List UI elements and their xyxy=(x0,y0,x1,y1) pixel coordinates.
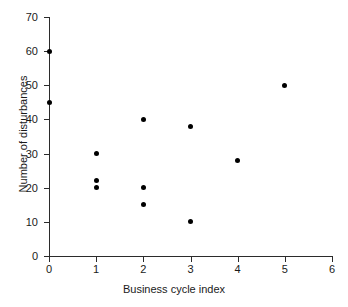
data-point xyxy=(188,124,193,129)
x-tick-mark xyxy=(49,257,50,262)
scatter-chart: 010203040506070 0123456 Business cycle i… xyxy=(0,0,348,307)
x-tick-mark xyxy=(96,257,97,262)
x-tick-label: 5 xyxy=(275,264,295,275)
x-tick-label: 6 xyxy=(322,264,342,275)
x-tick-label: 2 xyxy=(133,264,153,275)
x-tick-mark xyxy=(191,257,192,262)
x-tick-mark xyxy=(143,257,144,262)
x-tick-mark xyxy=(238,257,239,262)
data-point xyxy=(47,100,52,105)
x-tick-mark xyxy=(332,257,333,262)
x-tick-mark xyxy=(285,257,286,262)
data-point xyxy=(141,117,146,122)
x-axis-title: Business cycle index xyxy=(0,283,348,295)
data-point xyxy=(47,49,52,54)
x-tick-label: 4 xyxy=(228,264,248,275)
data-point xyxy=(94,151,99,156)
y-tick-label: 0 xyxy=(12,251,38,262)
data-point xyxy=(94,185,99,190)
x-tick-label: 3 xyxy=(181,264,201,275)
y-axis-title: Number of disturbances xyxy=(17,19,29,249)
x-tick-label: 0 xyxy=(39,264,59,275)
x-tick-label: 1 xyxy=(86,264,106,275)
